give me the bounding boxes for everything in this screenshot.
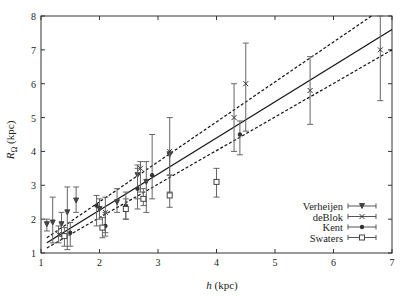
circle-marker-icon (238, 132, 242, 136)
data-point (140, 189, 146, 206)
y-tick-label: 4 (31, 146, 36, 157)
triangle-marker-icon (65, 210, 70, 215)
data-point (114, 189, 120, 213)
x-tick-label: 5 (273, 257, 278, 268)
x-tick-label: 3 (156, 257, 161, 268)
circle-marker-icon (135, 186, 139, 190)
square-marker-icon (62, 234, 67, 239)
data-point (143, 162, 149, 213)
triangle-marker-icon (115, 200, 120, 205)
data-point (64, 187, 70, 250)
x-axis-label: h (kpc) (206, 279, 238, 292)
legend-label: Kent (323, 222, 343, 233)
data-point (73, 187, 79, 212)
data-point (307, 57, 313, 125)
x-tick-label: 7 (390, 257, 395, 268)
square-marker-icon (214, 179, 219, 184)
triangle-marker-icon (50, 220, 55, 225)
triangle-marker-icon (144, 179, 149, 184)
data-point (67, 223, 73, 247)
data-point (243, 43, 249, 131)
scatter-chart: 123456712345678 VerheijendeBlokKentSwate… (0, 0, 408, 296)
square-marker-icon (141, 196, 146, 201)
y-tick-label: 3 (31, 180, 36, 191)
x-tick-label: 4 (214, 257, 219, 268)
data-point (214, 168, 220, 197)
legend-label: Swaters (310, 233, 343, 244)
y-tick-label: 8 (31, 11, 36, 22)
square-marker-icon (167, 193, 172, 198)
square-marker-icon (360, 235, 365, 240)
chart-svg: 123456712345678 VerheijendeBlokKentSwate… (0, 0, 408, 296)
circle-marker-icon (94, 203, 98, 207)
circle-marker-icon (150, 173, 154, 177)
y-tick-label: 6 (31, 79, 36, 90)
circle-marker-icon (68, 230, 72, 234)
triangle-marker-icon (44, 222, 49, 227)
data-point (231, 84, 237, 152)
x-tick-label: 6 (331, 257, 336, 268)
legend: VerheijendeBlokKentSwaters (303, 201, 376, 244)
data-point (50, 197, 56, 243)
data-point (44, 219, 50, 231)
data-point (99, 217, 105, 237)
y-tick-label: 5 (31, 113, 36, 124)
square-marker-icon (123, 206, 128, 211)
square-marker-icon (100, 225, 105, 230)
legend-label: deBlok (313, 212, 344, 223)
y-tick-label: 2 (31, 214, 36, 225)
x-tick-label: 2 (97, 257, 102, 268)
x-tick-label: 1 (39, 257, 44, 268)
y-tick-label: 1 (31, 248, 36, 259)
data-point (167, 175, 173, 207)
y-axis-label: RΩ (kpc) (4, 120, 19, 160)
legend-label: Verheijen (303, 201, 344, 212)
circle-marker-icon (360, 225, 364, 229)
triangle-marker-icon (74, 198, 79, 203)
triangle-marker-icon (360, 204, 365, 209)
data-point (123, 199, 129, 219)
y-tick-label: 7 (31, 45, 36, 56)
